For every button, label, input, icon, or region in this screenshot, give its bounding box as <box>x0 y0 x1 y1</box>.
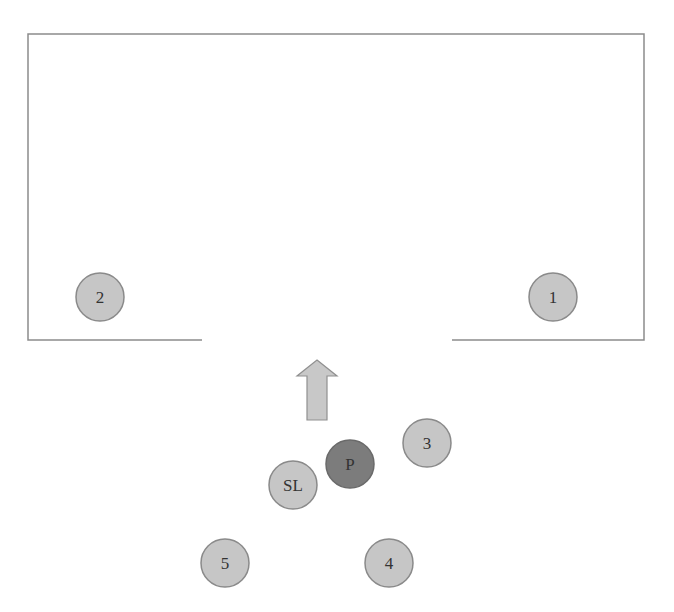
node-1: 1 <box>529 273 577 321</box>
node-2: 2 <box>76 273 124 321</box>
node-5: 5 <box>201 539 249 587</box>
node-label: 2 <box>96 288 105 307</box>
node-label: 4 <box>385 554 394 573</box>
node-4: 4 <box>365 539 413 587</box>
node-label: 3 <box>423 434 432 453</box>
arrow-up-icon <box>297 360 337 420</box>
node-label: P <box>345 455 354 474</box>
node-label: SL <box>283 476 303 495</box>
formation-diagram: 1 2 3 P SL 5 4 <box>0 0 674 612</box>
node-label: 5 <box>221 554 230 573</box>
node-3: 3 <box>403 419 451 467</box>
node-sl: SL <box>269 461 317 509</box>
node-p: P <box>326 440 374 488</box>
node-label: 1 <box>549 288 558 307</box>
